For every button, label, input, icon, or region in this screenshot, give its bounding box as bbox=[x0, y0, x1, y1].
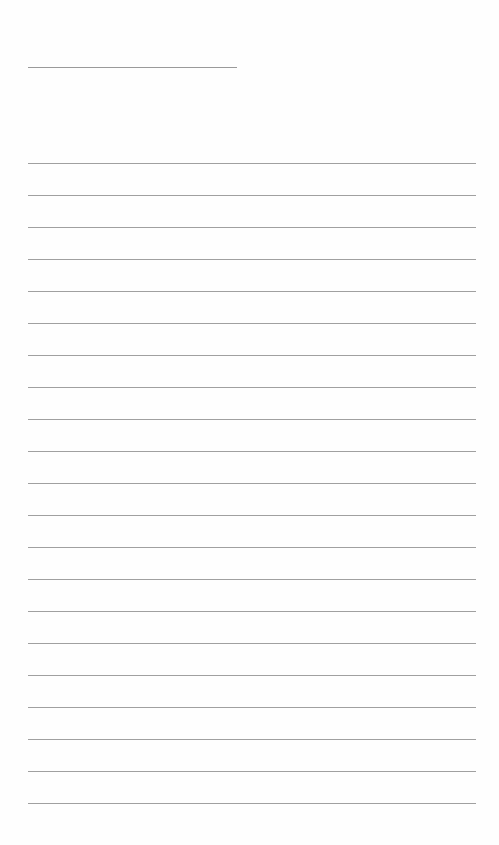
ruled-line bbox=[28, 291, 476, 292]
writing-line-text[interactable] bbox=[30, 267, 474, 291]
ruled-line bbox=[28, 387, 476, 388]
writing-line-text[interactable] bbox=[30, 299, 474, 323]
writing-line-text[interactable] bbox=[30, 203, 474, 227]
writing-line-text[interactable] bbox=[30, 651, 474, 675]
writing-line-text[interactable] bbox=[30, 235, 474, 259]
writing-line-text[interactable] bbox=[30, 683, 474, 707]
ruled-line bbox=[28, 675, 476, 676]
ruled-line bbox=[28, 195, 476, 196]
writing-line-text[interactable] bbox=[30, 555, 474, 579]
ruled-line bbox=[28, 259, 476, 260]
ruled-line bbox=[28, 515, 476, 516]
ruled-line bbox=[28, 643, 476, 644]
ruled-line bbox=[28, 771, 476, 772]
ruled-line bbox=[28, 355, 476, 356]
writing-line-text[interactable] bbox=[30, 331, 474, 355]
writing-line-text[interactable] bbox=[30, 619, 474, 643]
writing-line-text[interactable] bbox=[30, 363, 474, 387]
title-rule bbox=[28, 67, 237, 68]
writing-line-text[interactable] bbox=[30, 459, 474, 483]
ruled-line bbox=[28, 163, 476, 164]
writing-line-text[interactable] bbox=[30, 427, 474, 451]
writing-line-text[interactable] bbox=[30, 587, 474, 611]
writing-line-text[interactable] bbox=[30, 523, 474, 547]
ruled-line bbox=[28, 547, 476, 548]
ruled-line bbox=[28, 579, 476, 580]
ruled-line bbox=[28, 451, 476, 452]
ruled-line bbox=[28, 323, 476, 324]
ruled-line bbox=[28, 803, 476, 804]
writing-line-text[interactable] bbox=[30, 395, 474, 419]
title-field[interactable] bbox=[30, 48, 235, 66]
ruled-line bbox=[28, 739, 476, 740]
ruled-line bbox=[28, 419, 476, 420]
ruled-line bbox=[28, 707, 476, 708]
writing-line-text[interactable] bbox=[30, 171, 474, 195]
writing-line-text[interactable] bbox=[30, 715, 474, 739]
writing-line-text[interactable] bbox=[30, 747, 474, 771]
writing-line-text[interactable] bbox=[30, 491, 474, 515]
ruled-line bbox=[28, 611, 476, 612]
writing-line-text[interactable] bbox=[30, 139, 474, 163]
lined-paper-page bbox=[0, 0, 499, 845]
ruled-line bbox=[28, 227, 476, 228]
writing-line-text[interactable] bbox=[30, 779, 474, 803]
ruled-line bbox=[28, 483, 476, 484]
